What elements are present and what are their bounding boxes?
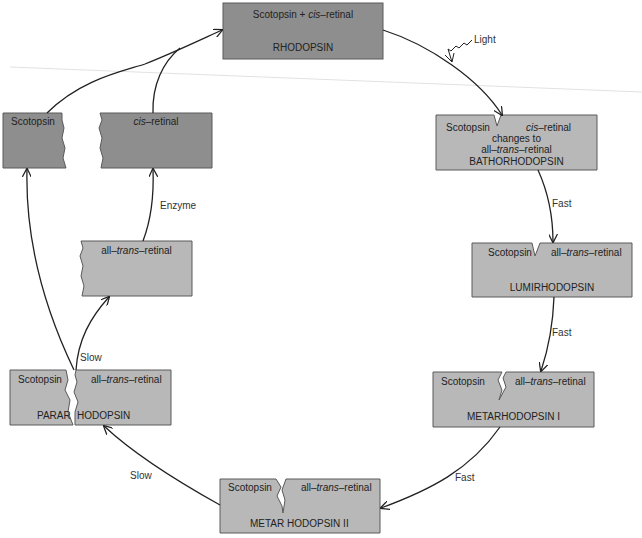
text-all: all– <box>551 247 567 258</box>
lumirhodopsin-name: LUMIRHODOPSIN <box>472 282 632 294</box>
metarhodopsin-2-scotopsin: Scotopsin <box>228 482 272 494</box>
metarhodopsin-1-name: METARHODOPSIN I <box>433 411 594 423</box>
text-retinal: –retinal <box>538 122 571 133</box>
scotopsin-free-label: Scotopsin <box>11 116 55 128</box>
text-trans: trans <box>107 374 129 385</box>
rhodopsin-components: Scotopsin + cis–retinal <box>223 9 383 21</box>
scan-artifact-line <box>10 67 642 92</box>
pararhodopsin-name-left: PARAR <box>37 410 71 422</box>
all-trans-retinal-free-label: all–trans–retinal <box>81 245 192 257</box>
arrow-all-trans-to-cis <box>143 169 153 241</box>
text-all: all– <box>101 245 117 256</box>
text-all: all– <box>515 376 531 387</box>
lumirhodopsin-all-trans: all–trans–retinal <box>551 247 622 259</box>
edge-label-fast-1: Fast <box>552 198 571 210</box>
text-trans: trans <box>531 376 553 387</box>
edge-label-slow-2: Slow <box>130 470 152 482</box>
text-retinal: –retinal <box>589 247 622 258</box>
arrow-cis-to-rhodopsin <box>153 48 180 113</box>
text-trans: trans <box>117 245 139 256</box>
text-retinal: –retinal <box>339 482 372 493</box>
text-all: all– <box>481 144 497 155</box>
text-trans: trans <box>317 482 339 493</box>
metarhodopsin-1-scotopsin: Scotopsin <box>441 376 485 388</box>
text-all: all– <box>91 374 107 385</box>
metarhodopsin-1-all-trans: all–trans–retinal <box>515 376 586 388</box>
cis-retinal-free-label: cis–retinal <box>100 116 212 128</box>
arrow-para-to-scotopsin <box>27 169 74 370</box>
lumirhodopsin-scotopsin: Scotopsin <box>488 247 532 259</box>
text-trans: trans <box>497 144 519 155</box>
text-retinal: –retinal <box>320 9 353 20</box>
text-retinal: –retinal <box>146 116 179 127</box>
metarhodopsin-2-name-right: HODOPSIN II <box>287 518 349 530</box>
pararhodopsin-all-trans: all–trans–retinal <box>91 374 162 386</box>
bathorhodopsin-name: BATHORHODOPSIN <box>436 156 597 168</box>
text-retinal: –retinal <box>519 144 552 155</box>
pararhodopsin-scotopsin: Scotopsin <box>18 374 62 386</box>
pararhodopsin-name-right: HODOPSIN <box>77 410 130 422</box>
arrow-batho-to-lumi <box>538 170 553 242</box>
text-cis: cis <box>308 9 320 20</box>
metarhodopsin-2-name-left: METAR <box>250 518 284 530</box>
arrow-meta1-to-meta2 <box>381 427 500 508</box>
text-all: all– <box>301 482 317 493</box>
text-retinal: –retinal <box>553 376 586 387</box>
bathorhodopsin-all-trans: all–trans–retinal <box>436 144 597 156</box>
edge-label-fast-2: Fast <box>552 327 571 339</box>
edge-label-slow-1: Slow <box>80 352 102 364</box>
edge-label-fast-3: Fast <box>455 472 474 484</box>
text-trans: trans <box>567 247 589 258</box>
metarhodopsin-2-all-trans: all–trans–retinal <box>301 482 372 494</box>
rhodopsin-name: RHODOPSIN <box>223 42 383 54</box>
text-retinal: –retinal <box>139 245 172 256</box>
text-retinal: –retinal <box>129 374 162 385</box>
edge-label-light: Light <box>474 34 496 46</box>
text-cis: cis <box>526 122 538 133</box>
edge-label-enzyme: Enzyme <box>160 200 196 212</box>
light-zigzag-arrow <box>448 40 472 62</box>
text-cis: cis <box>133 116 145 127</box>
text-scotopsin-plus: Scotopsin + <box>253 9 308 20</box>
arrow-meta2-to-para <box>104 426 220 505</box>
rhodopsin-cycle-diagram <box>0 0 642 538</box>
